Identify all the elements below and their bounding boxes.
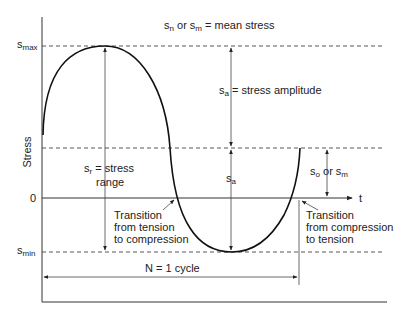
smin-label: smin [17,244,35,258]
smax-label: smax [17,38,38,52]
x-axis-label: t [359,192,362,204]
mean-stress-right-label: so or sm [310,165,348,179]
amplitude-label: sa = stress amplitude [219,84,322,98]
stress-range-label-line2: range [96,176,124,188]
amplitude-lower-label: sa [226,172,237,186]
cycle-label: N = 1 cycle [145,262,200,274]
y-axis-label: Stress [21,136,33,168]
stress-range-label: sr = stress [84,162,135,176]
transition-tension-compression: Transition from tension to compression [114,209,189,245]
zero-label: 0 [30,192,36,204]
transition-compression-tension: Transition from compression to tension [306,209,396,245]
mean-stress-title: sn or sm = mean stress [164,19,275,33]
fatigue-stress-cycle-diagram: sn or sm = mean stress smax smin 0 Stres… [0,0,406,322]
